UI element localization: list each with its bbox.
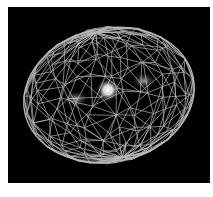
molecule-lobe bbox=[132, 73, 156, 89]
figure-panel bbox=[8, 7, 210, 183]
wireframe-ellipsoid-figure bbox=[8, 7, 210, 183]
